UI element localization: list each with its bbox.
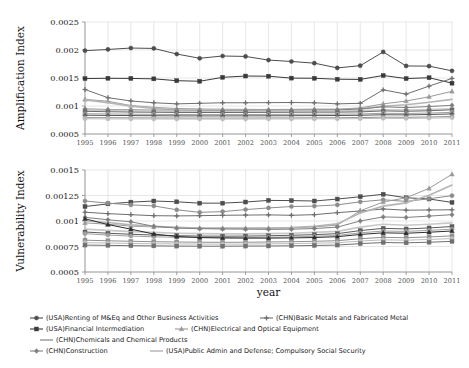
- data-point-marker: [289, 204, 293, 208]
- legend-item[interactable]: (USA)Financial Intermediation: [30, 325, 144, 333]
- data-point-marker: [198, 117, 202, 121]
- x-tick-label: 1997: [122, 139, 139, 147]
- x-tick-label: 2009: [398, 277, 415, 285]
- data-point-marker: [289, 117, 293, 121]
- x-tick-label: 2008: [375, 139, 392, 147]
- x-tick-label: 1996: [100, 277, 117, 285]
- data-point-marker: [335, 77, 339, 81]
- data-point-marker: [358, 242, 362, 246]
- data-point-marker: [381, 73, 385, 77]
- y-tick-label: 0.0025: [50, 17, 79, 27]
- x-tick-label: 2004: [283, 139, 300, 147]
- data-point-marker: [34, 316, 38, 320]
- data-point-marker: [244, 244, 248, 248]
- data-point-marker: [175, 208, 179, 212]
- x-tick-label: 2009: [398, 139, 415, 147]
- data-point-marker: [243, 54, 247, 58]
- y-tick-label: 0.002: [56, 45, 79, 55]
- data-point-marker: [83, 205, 87, 209]
- y-tick-label: 0.00125: [45, 191, 79, 201]
- data-point-marker: [381, 116, 385, 120]
- legend-item[interactable]: (CHN)Chemicals and Chemical Products: [40, 336, 188, 344]
- x-tick-label: 1999: [168, 277, 185, 285]
- data-point-marker: [83, 49, 87, 53]
- y-tick-label: 0.0005: [50, 267, 79, 277]
- data-point-marker: [221, 244, 225, 248]
- data-point-marker: [312, 117, 316, 121]
- legend-item[interactable]: (USA)Renting of M&Eq and Other Business …: [30, 314, 219, 322]
- x-tick-label: 2006: [329, 139, 346, 147]
- data-point-marker: [221, 54, 225, 58]
- data-point-marker: [152, 244, 156, 248]
- x-tick-label: 1998: [145, 277, 162, 285]
- data-point-marker: [175, 117, 179, 121]
- data-point-marker: [244, 200, 248, 204]
- y-tick-label: 0.001: [56, 101, 79, 111]
- data-point-marker: [35, 327, 39, 331]
- x-tick-label: 2002: [237, 139, 254, 147]
- data-point-marker: [106, 233, 110, 237]
- figure-background: [0, 0, 469, 368]
- legend-label: (CHN)Electrical and Optical Equipment: [191, 325, 319, 333]
- data-point-marker: [404, 241, 408, 245]
- data-point-marker: [106, 47, 110, 51]
- data-point-marker: [243, 117, 247, 121]
- legend-label: (USA)Renting of M&Eq and Other Business …: [46, 314, 219, 322]
- x-tick-label: 2004: [283, 277, 300, 285]
- data-point-marker: [358, 77, 362, 81]
- data-point-marker: [358, 64, 362, 68]
- data-point-marker: [83, 117, 87, 121]
- data-point-marker: [312, 204, 316, 208]
- data-point-marker: [129, 76, 133, 80]
- x-tick-label: 2011: [444, 139, 461, 147]
- data-point-marker: [106, 201, 110, 205]
- legend-label: (CHN)Construction: [46, 347, 108, 355]
- data-point-marker: [335, 66, 339, 70]
- legend-item[interactable]: (CHN)Electrical and Optical Equipment: [175, 325, 319, 333]
- data-point-marker: [358, 117, 362, 121]
- data-point-marker: [83, 243, 87, 247]
- data-point-marker: [335, 117, 339, 121]
- x-tick-label: 2002: [237, 277, 254, 285]
- legend-label: (CHN)Chemicals and Chemical Products: [56, 336, 188, 344]
- data-point-marker: [289, 59, 293, 63]
- data-point-marker: [427, 76, 431, 80]
- data-point-marker: [129, 244, 133, 248]
- data-point-marker: [267, 198, 271, 202]
- x-tick-label: 1997: [122, 277, 139, 285]
- legend-item[interactable]: (USA)Public Admin and Defense; Compulsor…: [150, 347, 366, 355]
- x-tick-label: 2010: [421, 139, 438, 147]
- data-point-marker: [106, 117, 110, 121]
- data-point-marker: [450, 81, 454, 85]
- x-tick-label: 1998: [145, 139, 162, 147]
- data-point-marker: [152, 199, 156, 203]
- y-tick-label: 0.00075: [45, 242, 79, 252]
- x-axis-title: year: [256, 286, 281, 298]
- data-point-marker: [221, 75, 225, 79]
- x-tick-label: 1996: [100, 139, 117, 147]
- data-point-marker: [106, 243, 110, 247]
- data-point-marker: [381, 241, 385, 245]
- x-tick-label: 2011: [444, 277, 461, 285]
- data-point-marker: [427, 197, 431, 201]
- legend-item[interactable]: (CHN)Basic Metals and Fabricated Metal: [260, 314, 408, 322]
- data-point-marker: [404, 116, 408, 120]
- data-point-marker: [427, 64, 431, 68]
- x-tick-label: 1995: [77, 277, 94, 285]
- y-axis-title-vulnerability: Vulnerability Index: [14, 170, 26, 272]
- data-point-marker: [267, 244, 271, 248]
- data-point-marker: [175, 79, 179, 83]
- data-point-marker: [335, 203, 339, 207]
- data-point-marker: [312, 76, 316, 80]
- chart-figure: 0.00050.0010.00150.0020.0025199519961997…: [0, 0, 469, 368]
- data-point-marker: [243, 207, 247, 211]
- y-axis-title-amplification: Amplification Index: [14, 26, 26, 131]
- data-point-marker: [335, 197, 339, 201]
- data-point-marker: [358, 195, 362, 199]
- x-tick-label: 2005: [306, 277, 323, 285]
- data-point-marker: [450, 69, 454, 73]
- data-point-marker: [129, 46, 133, 50]
- x-tick-label: 2000: [191, 277, 208, 285]
- data-point-marker: [358, 200, 362, 204]
- data-point-marker: [289, 244, 293, 248]
